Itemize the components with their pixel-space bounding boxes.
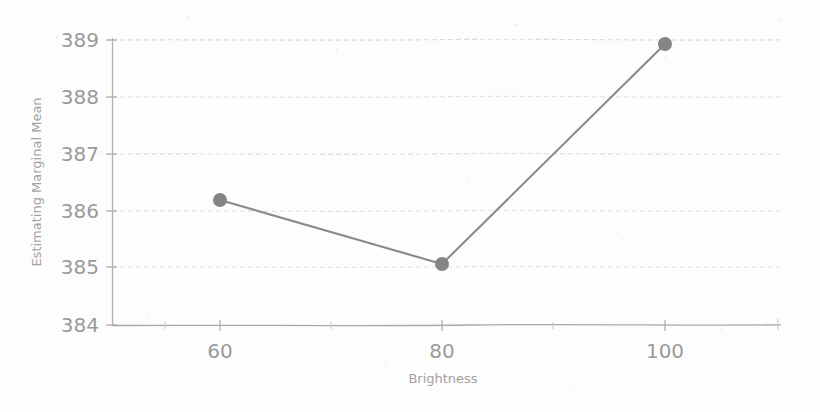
x-tick-label: 60: [207, 339, 232, 363]
y-tick-labels: 389 388 387 386 385 384: [61, 28, 99, 337]
y-tick-label: 386: [61, 199, 99, 223]
y-tick-label: 384: [61, 313, 99, 337]
x-axis-title: Brightness: [408, 371, 477, 386]
gridlines: [112, 39, 780, 267]
y-tick-marks: [106, 40, 117, 325]
y-tick-label: 385: [61, 255, 99, 279]
data-point-marker[interactable]: [658, 37, 672, 51]
y-tick-label: 387: [61, 142, 99, 166]
x-axis-line: [112, 325, 781, 326]
data-point-marker[interactable]: [435, 257, 449, 271]
y-tick-label: 388: [61, 85, 99, 109]
axes: [112, 38, 781, 326]
gridline-389: [112, 39, 780, 40]
y-tick-label: 389: [61, 28, 99, 52]
line-chart: 389 388 387 386 385 384 60 80 100 Bright…: [0, 0, 820, 412]
x-tick-labels: 60 80 100: [207, 339, 684, 363]
data-point-marker[interactable]: [213, 193, 227, 207]
x-tick-label: 100: [646, 339, 684, 363]
y-axis-title: Estimating Marginal Mean: [29, 97, 44, 266]
gridline-387: [112, 153, 780, 154]
gridline-388: [112, 96, 780, 97]
x-tick-label: 80: [429, 339, 454, 363]
gridline-386: [112, 211, 780, 212]
